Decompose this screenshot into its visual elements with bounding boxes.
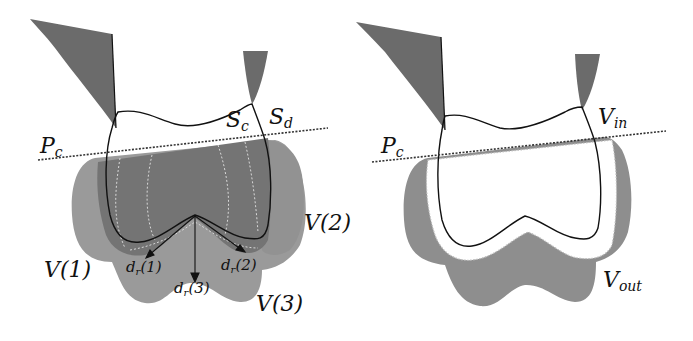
surface-d-label: Sd — [269, 104, 293, 131]
right-panel: Pc Vin Vout — [356, 22, 666, 306]
direction-3-label: dr(3) — [174, 279, 210, 298]
diagram-canvas: Pc Sc Sd V(2) V(1) V(3) dr(1) dr(2) dr(3… — [0, 0, 693, 341]
right-tissue-wedge — [243, 51, 268, 104]
volume-1-label: V(1) — [44, 257, 91, 282]
right-tissue-wedge — [575, 54, 600, 110]
left-tissue-wedge — [356, 22, 445, 130]
left-panel: Pc Sc Sd V(2) V(1) V(3) dr(1) dr(2) dr(3… — [30, 19, 351, 316]
volume-3-label: V(3) — [256, 291, 303, 316]
plane-label: Pc — [380, 133, 404, 160]
left-tissue-wedge — [30, 19, 116, 128]
volume-2-label: V(2) — [304, 210, 351, 235]
volume-out-label: Vout — [603, 267, 642, 294]
plane-label: Pc — [39, 133, 63, 160]
direction-1-label: dr(1) — [126, 258, 162, 277]
direction-2-label: dr(2) — [221, 256, 257, 275]
volume-in-label: Vin — [598, 104, 627, 131]
figure: Pc Sc Sd V(2) V(1) V(3) dr(1) dr(2) dr(3… — [0, 0, 693, 341]
surface-c-label: Sc — [226, 107, 249, 134]
